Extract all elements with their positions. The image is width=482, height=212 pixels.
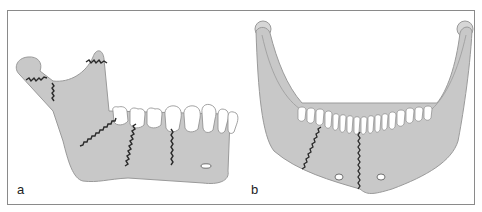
left-mental-foramen (335, 174, 343, 180)
panel-label-b: b (251, 183, 258, 196)
mandible-lateral-illustration (8, 11, 242, 206)
mandible-bone (256, 27, 472, 193)
panel-b-frontal-view: b (242, 11, 476, 204)
panel-label-a: a (17, 183, 24, 196)
mandible-frontal-illustration (242, 11, 476, 206)
panel-a-lateral-view: a (8, 11, 242, 204)
right-mental-foramen (377, 174, 385, 180)
figure-frame: a (7, 10, 475, 205)
mental-foramen (201, 164, 211, 168)
